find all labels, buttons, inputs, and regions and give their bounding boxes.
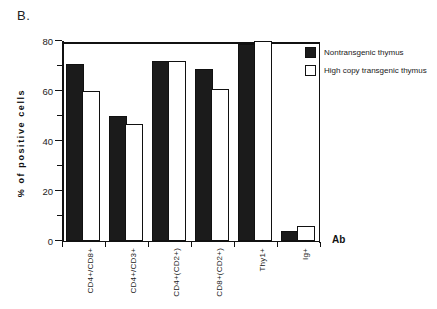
y-tick-label: 20 xyxy=(42,186,53,197)
y-tick-major xyxy=(55,140,62,141)
bar-transgenic xyxy=(82,91,100,241)
x-tick xyxy=(234,242,235,247)
open-square-icon xyxy=(305,65,316,76)
bar-transgenic xyxy=(254,41,272,241)
bar-transgenic xyxy=(211,89,229,241)
x-tick xyxy=(191,242,192,247)
x-tick xyxy=(62,242,63,247)
bar-transgenic xyxy=(297,226,315,241)
legend-item: High copy transgenic thymus xyxy=(305,65,435,76)
y-tick-major xyxy=(55,240,62,241)
x-axis-title: Ab xyxy=(332,234,345,245)
chart-legend: Nontransgenic thymusHigh copy transgenic… xyxy=(305,47,435,83)
y-tick-label: 0 xyxy=(48,236,53,247)
chart-plot-area: 020406080 xyxy=(62,42,320,242)
y-tick-label: 60 xyxy=(42,86,53,97)
y-tick-label: 80 xyxy=(42,36,53,47)
y-axis-line xyxy=(62,41,64,242)
y-tick-minor xyxy=(57,215,62,216)
x-tick xyxy=(277,242,278,247)
y-tick-major xyxy=(55,90,62,91)
x-tick xyxy=(148,242,149,247)
x-category-label: CD8+(CD2+) xyxy=(215,248,224,297)
legend-label: Nontransgenic thymus xyxy=(324,48,404,57)
y-tick-major xyxy=(55,190,62,191)
x-tick xyxy=(105,242,106,247)
filled-square-icon xyxy=(305,47,316,58)
x-category-label: CD4+/CD3+ xyxy=(129,248,138,293)
y-tick-minor xyxy=(57,65,62,66)
axis-top-border xyxy=(62,42,320,44)
legend-item: Nontransgenic thymus xyxy=(305,47,435,58)
bar-transgenic xyxy=(125,124,143,241)
panel-label: B. xyxy=(17,8,30,23)
y-axis-title: % of positive cells xyxy=(16,68,26,218)
bar-transgenic xyxy=(168,61,186,241)
y-tick-minor xyxy=(57,165,62,166)
x-tick xyxy=(320,242,321,247)
x-category-label: Ig+ xyxy=(301,248,310,260)
legend-label: High copy transgenic thymus xyxy=(324,66,427,75)
x-category-label: CD4+/CD8+ xyxy=(86,248,95,293)
x-category-label: Thy1+ xyxy=(258,248,267,271)
y-tick-minor xyxy=(57,115,62,116)
y-tick-label: 40 xyxy=(42,136,53,147)
y-tick-major xyxy=(55,40,62,41)
x-category-label: CD4+(CD2+) xyxy=(172,248,181,297)
